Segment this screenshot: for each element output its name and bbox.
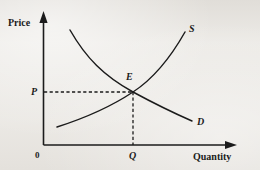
demand-curve-label: D [197, 117, 204, 127]
x-axis-label: Quantity [193, 152, 231, 162]
equilibrium-point-label: E [126, 72, 133, 82]
y-axis-label: Price [8, 18, 30, 28]
equilibrium-quantity-label: Q [129, 151, 136, 161]
y-axis-arrowhead [39, 11, 47, 23]
supply-curve-label: S [189, 24, 195, 34]
x-axis-arrowhead [225, 141, 237, 149]
origin-label: 0 [35, 151, 40, 160]
supply-curve [57, 32, 185, 127]
equilibrium-price-label: P [31, 87, 37, 97]
supply-demand-chart [0, 0, 260, 170]
figure-page: Price Quantity 0 P Q S D E [0, 0, 260, 170]
